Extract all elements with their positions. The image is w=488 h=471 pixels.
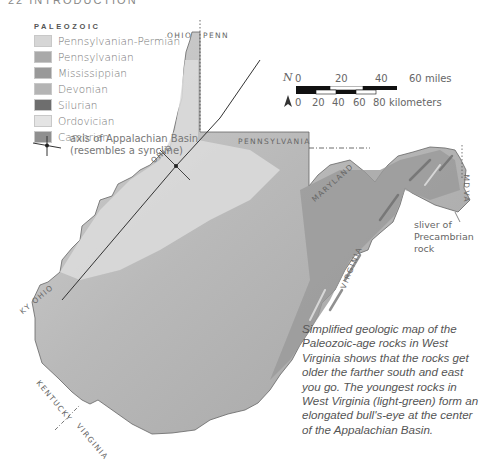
km-tick: 0 bbox=[295, 97, 301, 108]
swatch bbox=[34, 99, 52, 111]
swatch bbox=[34, 35, 52, 47]
sliver-annotation: sliver of Precambrian rock bbox=[414, 219, 474, 255]
sliver-line3: rock bbox=[414, 243, 474, 255]
km-tick: 20 bbox=[312, 97, 325, 108]
sliver-line1: sliver of bbox=[414, 219, 474, 231]
label-va: VA bbox=[462, 191, 471, 204]
legend-label: Devonian bbox=[58, 83, 108, 95]
legend-item-ordovician: Ordovician bbox=[34, 113, 180, 129]
axis-label-line2: (resembles a syncline) bbox=[70, 145, 198, 157]
legend-item-pennsylvanian-permian: Pennsylvanian-Permian bbox=[34, 33, 180, 49]
legend-label: Mississippian bbox=[58, 67, 127, 79]
legend-label: Ordovician bbox=[58, 115, 114, 127]
legend-item-pennsylvanian: Pennsylvanian bbox=[34, 49, 180, 65]
sliver-line2: Precambrian bbox=[414, 231, 474, 243]
axis-legend: axis of Appalachian Basin (resembles a s… bbox=[32, 133, 198, 157]
swatch bbox=[34, 115, 52, 127]
label-md: MD bbox=[462, 175, 471, 190]
legend-label: Pennsylvanian bbox=[58, 51, 134, 63]
swatch bbox=[34, 67, 52, 79]
km-tick: 60 bbox=[353, 97, 366, 108]
miles-tick: 40 bbox=[375, 73, 388, 84]
km-tick: 80 kilometers bbox=[373, 97, 442, 108]
north-symbol: N bbox=[283, 71, 293, 84]
figure-caption: Simplified geologic map of the Paleozoic… bbox=[302, 322, 484, 437]
legend-label: Pennsylvanian-Permian bbox=[58, 35, 180, 47]
axis-label-line1: axis of Appalachian Basin bbox=[70, 133, 198, 145]
map-legend: PALEOZOIC Pennsylvanian-Permian Pennsylv… bbox=[34, 22, 180, 145]
label-ohio-top: OHIO bbox=[167, 31, 192, 40]
legend-item-devonian: Devonian bbox=[34, 81, 180, 97]
legend-label: Silurian bbox=[58, 99, 97, 111]
label-penn-top: PENN bbox=[203, 31, 229, 40]
syncline-axis-icon bbox=[32, 135, 62, 157]
km-tick: 40 bbox=[332, 97, 345, 108]
legend-title: PALEOZOIC bbox=[34, 22, 180, 31]
swatch bbox=[34, 83, 52, 95]
label-pennsylvania: PENNSYLVANIA bbox=[238, 137, 311, 146]
swatch bbox=[34, 51, 52, 63]
scale-bars bbox=[296, 86, 436, 96]
miles-tick: 0 bbox=[295, 73, 301, 84]
legend-item-mississippian: Mississippian bbox=[34, 65, 180, 81]
miles-tick: 60 miles bbox=[409, 73, 452, 84]
miles-tick: 20 bbox=[335, 73, 348, 84]
legend-item-silurian: Silurian bbox=[34, 97, 180, 113]
north-arrow-icon bbox=[283, 95, 293, 107]
